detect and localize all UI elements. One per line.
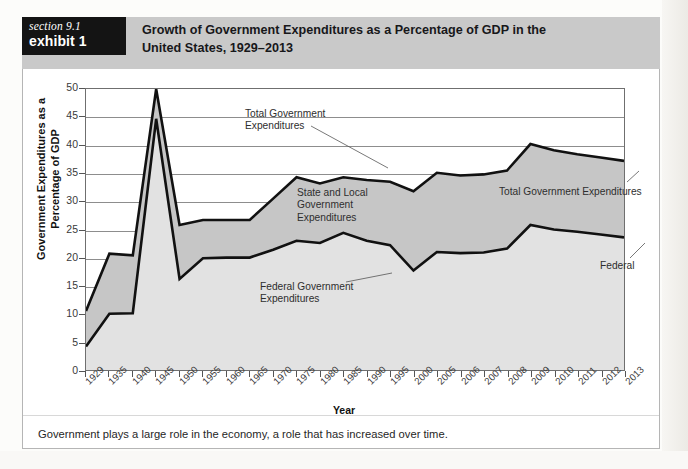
leader-federal-right <box>630 243 645 258</box>
annotation-federal-government-left: Federal Government Expenditures <box>260 281 353 306</box>
y-tick-30 <box>79 201 85 202</box>
y-tick-20 <box>79 258 85 259</box>
y-axis-labels: 05101520253035404550 <box>44 0 78 469</box>
annotation-federal-right: Federal <box>600 260 635 272</box>
y-tick-label-15: 15 <box>52 279 78 291</box>
annotation-total-government-left: Total Government Expenditures <box>245 108 325 133</box>
y-tick-label-5: 5 <box>52 336 78 348</box>
y-tick-label-10: 10 <box>52 307 78 319</box>
y-tick-40 <box>79 145 85 146</box>
exhibit-caption: Government plays a large role in the eco… <box>38 428 618 440</box>
plot-area <box>85 88 625 371</box>
annotation-state-and-local: State and Local Government Expenditures <box>297 187 368 224</box>
y-tick-35 <box>79 173 85 174</box>
y-tick-5 <box>79 343 85 344</box>
y-tick-50 <box>79 88 85 89</box>
y-tick-45 <box>79 116 85 117</box>
leader-total-right <box>627 171 639 182</box>
y-tick-15 <box>79 286 85 287</box>
y-tick-label-25: 25 <box>52 223 78 235</box>
page-canvas: section 9.1 exhibit 1 Growth of Governme… <box>0 0 688 469</box>
y-tick-10 <box>79 314 85 315</box>
y-tick-25 <box>79 230 85 231</box>
y-tick-0 <box>79 371 85 372</box>
y-tick-label-30: 30 <box>52 194 78 206</box>
y-tick-label-40: 40 <box>52 138 78 150</box>
y-tick-label-35: 35 <box>52 166 78 178</box>
y-tick-label-50: 50 <box>52 81 78 93</box>
area-chart-svg <box>86 89 624 370</box>
y-tick-label-45: 45 <box>52 109 78 121</box>
x-tick-label-2013: 2013 <box>623 364 646 387</box>
caption-divider <box>23 415 659 416</box>
annotation-total-government-right: Total Government Expenditures <box>499 186 642 198</box>
plot-wrapper: Government Expenditures as a Percentage … <box>0 0 688 469</box>
y-tick-label-20: 20 <box>52 251 78 263</box>
y-tick-label-0: 0 <box>52 364 78 376</box>
